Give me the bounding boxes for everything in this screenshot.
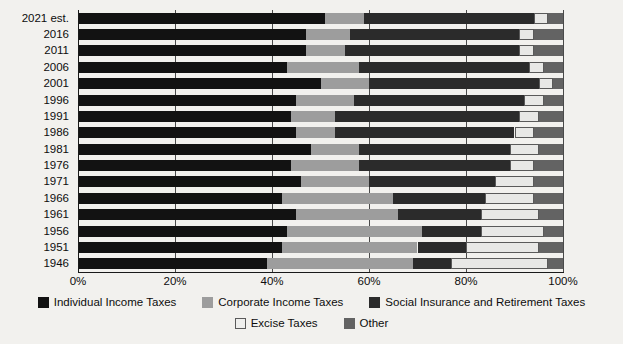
chart-legend: Individual Income TaxesCorporate Income …	[0, 292, 623, 334]
bar-segment-corporate-income-taxes	[296, 127, 335, 138]
y-axis-label: 1981	[43, 144, 69, 155]
bar-segment-excise-taxes	[539, 78, 554, 89]
bar-segment-individual-income-taxes	[78, 160, 291, 171]
y-axis-label: 1951	[43, 242, 69, 253]
gridline-100pct	[563, 10, 564, 272]
bar-segment-other	[548, 13, 563, 24]
bar-segment-other	[553, 78, 563, 89]
bar-segment-excise-taxes	[485, 193, 534, 204]
bar-segment-social-insurance-and-retirement-taxes	[369, 78, 539, 89]
legend-swatch-corporate-income-taxes	[202, 297, 213, 308]
legend-label: Excise Taxes	[251, 317, 318, 330]
bar-row	[78, 160, 563, 171]
bar-segment-excise-taxes	[510, 160, 534, 171]
x-axis-labels: 0%20%40%60%80%100%	[0, 274, 623, 290]
bar-segment-corporate-income-taxes	[306, 29, 350, 40]
plot-area	[78, 10, 563, 272]
bar-segment-social-insurance-and-retirement-taxes	[354, 95, 524, 106]
bar-segment-other	[534, 176, 563, 187]
bar-segment-corporate-income-taxes	[296, 95, 354, 106]
y-axis-label: 1956	[43, 226, 69, 237]
bar-segment-other	[534, 29, 563, 40]
legend-item[interactable]: Excise Taxes	[235, 317, 318, 330]
bar-segment-excise-taxes	[519, 29, 534, 40]
bar-segment-social-insurance-and-retirement-taxes	[364, 13, 534, 24]
bar-row	[78, 95, 563, 106]
y-axis-label: 2011	[44, 45, 69, 56]
bar-row	[78, 144, 563, 155]
legend-item[interactable]: Other	[344, 317, 389, 330]
bar-segment-excise-taxes	[451, 258, 548, 269]
bar-row	[78, 209, 563, 220]
bar-segment-other	[539, 242, 563, 253]
bar-segment-individual-income-taxes	[78, 78, 321, 89]
y-axis-label: 2021 est.	[22, 13, 69, 24]
x-axis-tick-label: 60%	[357, 274, 380, 288]
bar-segment-social-insurance-and-retirement-taxes	[369, 176, 495, 187]
y-axis-label: 2016	[43, 29, 69, 40]
bar-segment-social-insurance-and-retirement-taxes	[359, 144, 509, 155]
bar-segment-social-insurance-and-retirement-taxes	[393, 193, 485, 204]
bar-segment-other	[544, 226, 563, 237]
bar-row	[78, 78, 563, 89]
bar-segment-excise-taxes	[519, 111, 538, 122]
bar-segment-individual-income-taxes	[78, 176, 301, 187]
bar-segment-individual-income-taxes	[78, 193, 282, 204]
x-axis-tick-label: 20%	[163, 274, 186, 288]
legend-swatch-other	[344, 318, 355, 329]
bar-segment-social-insurance-and-retirement-taxes	[350, 29, 520, 40]
bar-row	[78, 29, 563, 40]
bar-segment-social-insurance-and-retirement-taxes	[418, 242, 467, 253]
legend-label: Other	[360, 317, 389, 330]
y-axis-label: 1946	[43, 258, 69, 269]
bar-segment-excise-taxes	[519, 45, 534, 56]
bar-segment-excise-taxes	[481, 209, 539, 220]
bar-segment-excise-taxes	[510, 144, 539, 155]
bar-segment-corporate-income-taxes	[311, 144, 360, 155]
y-axis-label: 1971	[43, 176, 69, 187]
bar-segment-individual-income-taxes	[78, 242, 282, 253]
y-axis-label: 2001	[43, 78, 69, 89]
x-axis-tick-label: 80%	[454, 274, 477, 288]
bar-segment-other	[544, 95, 563, 106]
bar-segment-corporate-income-taxes	[306, 45, 345, 56]
bar-segment-other	[539, 144, 563, 155]
bar-segment-other	[544, 62, 563, 73]
stacked-bar-chart: 2021 est.2016201120062001199619911986198…	[0, 0, 623, 344]
bar-row	[78, 62, 563, 73]
bar-segment-individual-income-taxes	[78, 258, 267, 269]
y-axis-label: 1961	[43, 209, 69, 220]
bar-segment-corporate-income-taxes	[291, 160, 359, 171]
legend-swatch-social-insurance	[369, 297, 380, 308]
bar-row	[78, 242, 563, 253]
bar-segment-other	[534, 45, 563, 56]
legend-item[interactable]: Social Insurance and Retirement Taxes	[369, 296, 585, 309]
legend-item[interactable]: Individual Income Taxes	[38, 296, 177, 309]
y-axis-label: 2006	[43, 62, 69, 73]
bar-segment-corporate-income-taxes	[291, 111, 335, 122]
bar-segment-social-insurance-and-retirement-taxes	[335, 111, 519, 122]
legend-label: Social Insurance and Retirement Taxes	[385, 296, 585, 309]
bar-segment-individual-income-taxes	[78, 209, 296, 220]
bar-segment-social-insurance-and-retirement-taxes	[413, 258, 452, 269]
bar-segment-individual-income-taxes	[78, 13, 325, 24]
legend-label: Corporate Income Taxes	[218, 296, 343, 309]
bar-segment-excise-taxes	[524, 95, 543, 106]
legend-item[interactable]: Corporate Income Taxes	[202, 296, 343, 309]
bar-segment-corporate-income-taxes	[282, 242, 418, 253]
bar-row	[78, 13, 563, 24]
bar-segment-excise-taxes	[515, 127, 534, 138]
bar-segment-corporate-income-taxes	[301, 176, 369, 187]
bar-segment-social-insurance-and-retirement-taxes	[359, 62, 529, 73]
y-axis-label: 1966	[43, 193, 69, 204]
bar-segment-social-insurance-and-retirement-taxes	[345, 45, 520, 56]
bar-row	[78, 111, 563, 122]
bar-segment-corporate-income-taxes	[296, 209, 398, 220]
y-axis-labels: 2021 est.2016201120062001199619911986198…	[0, 10, 74, 272]
y-axis-label: 1991	[43, 111, 69, 122]
bar-row	[78, 45, 563, 56]
bar-segment-other	[534, 193, 563, 204]
x-axis-tick-label: 0%	[70, 274, 87, 288]
bar-segment-corporate-income-taxes	[287, 226, 423, 237]
bar-segment-social-insurance-and-retirement-taxes	[359, 160, 509, 171]
